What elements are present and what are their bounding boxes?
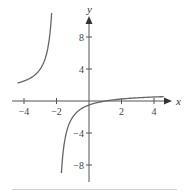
x-tick-label: −4 [19,106,30,117]
y-tick-label: −8 [73,160,84,171]
y-axis [86,16,93,182]
y-tick-label: 4 [79,64,84,75]
y-axis-arrow-icon [86,16,93,24]
curve-left-branch [18,13,52,83]
x-axis-arrow-icon [164,98,172,105]
y-axis-label: y [86,3,92,15]
chart-plot: −4−224 84−4−8 x y [0,0,189,193]
x-tick-label: 2 [119,106,124,117]
y-tick-label: −4 [73,128,84,139]
divider [12,189,177,190]
x-axis-label: x [175,95,181,107]
x-tick-label: −2 [51,106,62,117]
x-tick-label: 4 [152,106,157,117]
y-tick-label: 8 [79,32,84,43]
